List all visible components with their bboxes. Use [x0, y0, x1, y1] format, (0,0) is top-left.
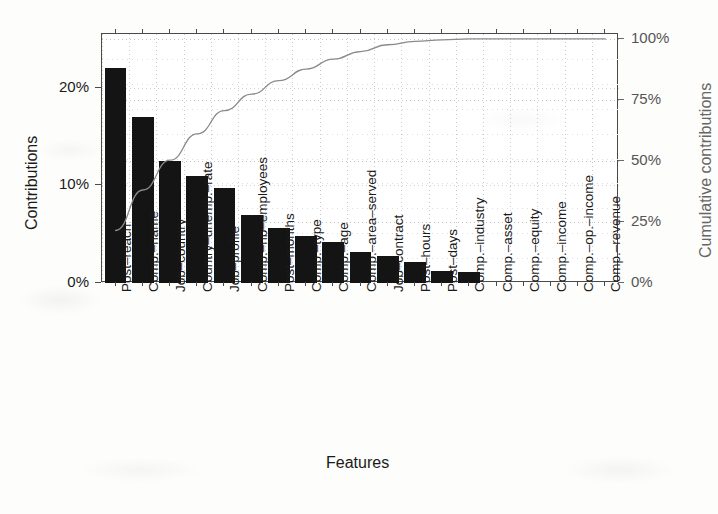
x-axis-tick-mark: [577, 282, 578, 286]
y-axis-right-tick-label: 0%: [631, 274, 691, 289]
x-axis-tick-mark-top: [223, 29, 224, 33]
x-axis-tick-mark-top: [468, 29, 469, 33]
x-axis-label: Post–hours: [419, 224, 433, 292]
x-axis-tick-mark: [387, 282, 388, 286]
x-axis-tick-mark-top: [332, 29, 333, 33]
x-axis-tick-mark: [115, 282, 116, 286]
x-axis-tick-mark: [360, 282, 361, 286]
x-axis-tick-mark: [332, 282, 333, 286]
y-axis-right-title: Cumulative contributions: [698, 83, 714, 258]
x-axis-label: Job–profile: [228, 226, 242, 292]
x-axis-title: Features: [326, 455, 389, 471]
x-axis-tick-mark-top: [577, 29, 578, 33]
x-axis-label: Comp.–age: [337, 222, 351, 292]
x-axis-tick-mark-top: [604, 29, 605, 33]
x-axis-tick-mark-top: [142, 29, 143, 33]
x-axis-tick-mark: [142, 282, 143, 286]
y-axis-left-tick-label: 10%: [35, 176, 89, 191]
x-axis-label: Comp.–industry: [473, 197, 487, 292]
x-axis-label: Comp.–op.–income: [582, 175, 596, 292]
x-axis-tick-mark-top: [305, 29, 306, 33]
x-axis-label: Comp.–revenue: [609, 196, 623, 292]
x-axis-tick-mark: [251, 282, 252, 286]
y-axis-right-tick-label: 25%: [631, 213, 691, 228]
x-axis-tick-mark: [550, 282, 551, 286]
x-axis-label: Post–days: [446, 229, 460, 292]
x-axis-label: Post–months: [283, 213, 297, 292]
x-axis-tick-mark-top: [550, 29, 551, 33]
x-axis-tick-mark-top: [251, 29, 252, 33]
y-axis-left-tick-mark: [95, 87, 101, 88]
x-axis-label: Comp.–income: [555, 201, 569, 292]
y-axis-right-tick-mark: [618, 160, 624, 161]
x-axis-tick-mark: [278, 282, 279, 286]
y-axis-left-tick-label: 20%: [35, 79, 89, 94]
x-axis-tick-mark: [496, 282, 497, 286]
x-axis-label: Country–unemp.–rate: [201, 161, 215, 292]
x-axis-tick-mark: [468, 282, 469, 286]
x-axis-label: Comp.–type: [310, 219, 324, 292]
y-axis-left-title: Contributions: [24, 136, 40, 230]
x-axis-label: Job–contract: [392, 215, 406, 292]
x-axis-tick-mark-top: [169, 29, 170, 33]
x-axis-label: Comp.–name: [147, 211, 161, 292]
x-axis-tick-mark: [196, 282, 197, 286]
x-axis-tick-mark: [604, 282, 605, 286]
x-axis-tick-mark: [523, 282, 524, 286]
x-axis-tick-mark-top: [115, 29, 116, 33]
x-axis-tick-mark-top: [196, 29, 197, 33]
y-axis-right-tick-label: 75%: [631, 91, 691, 106]
y-axis-right-tick-mark: [618, 99, 624, 100]
x-axis-tick-mark: [414, 282, 415, 286]
y-axis-left-tick-label: 0%: [35, 274, 89, 289]
x-axis-label: Comp.–equity: [528, 209, 542, 292]
pareto-chart: 0%10%20% 0%25%50%75%100% Post–reachComp.…: [0, 0, 718, 514]
x-axis-tick-mark-top: [387, 29, 388, 33]
y-axis-left-tick-mark: [95, 184, 101, 185]
y-axis-right-tick-label: 100%: [631, 30, 691, 45]
x-axis-tick-mark: [305, 282, 306, 286]
x-axis-label: Job–country: [174, 218, 188, 292]
x-axis-tick-mark: [441, 282, 442, 286]
x-axis-tick-mark-top: [414, 29, 415, 33]
x-axis-tick-mark-top: [278, 29, 279, 33]
x-axis-label: Comp.–asset: [501, 212, 515, 292]
x-axis-label: Post–reach: [120, 224, 134, 292]
x-axis-tick-mark-top: [360, 29, 361, 33]
y-axis-right-tick-mark: [618, 38, 624, 39]
x-axis-tick-mark-top: [441, 29, 442, 33]
x-axis-tick-mark: [169, 282, 170, 286]
x-axis-tick-mark: [223, 282, 224, 286]
y-axis-left-tick-mark: [95, 282, 101, 283]
x-axis-label: Comp.–area–served: [365, 170, 379, 292]
x-axis-tick-mark-top: [523, 29, 524, 33]
y-axis-right-tick-label: 50%: [631, 152, 691, 167]
x-axis-tick-mark-top: [496, 29, 497, 33]
x-axis-label: Comp.–nb–employees: [256, 157, 270, 292]
